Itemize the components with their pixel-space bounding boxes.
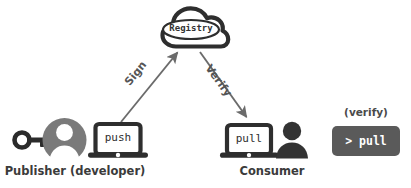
user-avatar-icon xyxy=(43,118,87,165)
registry-label: Registry xyxy=(163,23,219,33)
verify-note-label: (verify) xyxy=(326,106,406,118)
terminal-box: > pull xyxy=(332,126,400,156)
publisher-laptop-screen-text: push xyxy=(98,130,138,146)
consumer-laptop-screen-text: pull xyxy=(230,131,268,147)
publisher-caption: Publisher (developer) xyxy=(0,164,150,178)
consumer-caption: Consumer xyxy=(222,164,322,178)
terminal-command-text: > pull xyxy=(332,126,400,156)
person-icon xyxy=(276,122,308,159)
sign-arrow xyxy=(121,53,178,123)
